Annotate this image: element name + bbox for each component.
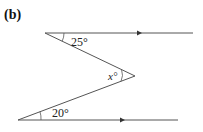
top-arrow-icon: [137, 31, 142, 36]
bottom-angle-arc: [40, 112, 41, 120]
top-angle-arc: [62, 33, 64, 41]
apex-angle-arc: [121, 70, 122, 82]
lower-transversal: [18, 76, 135, 120]
bottom-angle-label: 20°: [52, 106, 69, 120]
parallel-lines-angle-diagram: (b) 25° x° 20°: [0, 0, 203, 132]
bottom-arrow-icon: [120, 118, 125, 123]
part-label: (b): [4, 7, 21, 23]
top-angle-label: 25°: [71, 35, 88, 49]
apex-angle-label: x°: [107, 70, 118, 82]
